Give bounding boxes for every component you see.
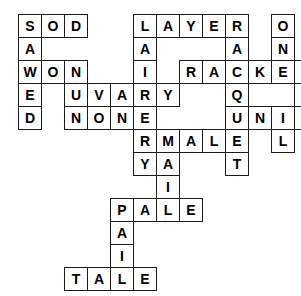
crossword-cell: L — [202, 129, 226, 153]
crossword-cell: Y — [133, 152, 157, 176]
crossword-cell: T — [294, 60, 301, 84]
crossword-cell: A — [294, 83, 301, 107]
crossword-cell: R — [179, 60, 203, 84]
crossword-cell: R — [133, 129, 157, 153]
crossword-cell: Y — [179, 14, 203, 38]
crossword-cell: R — [133, 83, 157, 107]
crossword-cell: P — [110, 198, 134, 222]
crossword-cell: N — [110, 106, 134, 130]
crossword-cell: U — [64, 83, 88, 107]
crossword-cell: Y — [156, 83, 180, 107]
crossword-cell: E — [225, 129, 249, 153]
crossword-cell: A — [133, 198, 157, 222]
crossword-cell: V — [87, 83, 111, 107]
crossword-cell: L — [110, 267, 134, 291]
crossword-cell: T — [225, 152, 249, 176]
crossword-cell: E — [271, 60, 295, 84]
crossword-cell: W — [18, 60, 42, 84]
crossword-cell: N — [64, 106, 88, 130]
crossword-cell: A — [110, 221, 134, 245]
crossword-cell: L — [271, 129, 295, 153]
crossword-cell: E — [18, 83, 42, 107]
crossword-grid: SODLAYEROKAAANNWONIRACKETIEUVARYQAGDNONE… — [0, 0, 301, 296]
crossword-cell: L — [133, 14, 157, 38]
crossword-cell: A — [156, 152, 180, 176]
crossword-cell: N — [248, 106, 272, 130]
crossword-cell: O — [41, 14, 65, 38]
crossword-cell: U — [225, 106, 249, 130]
crossword-cell: E — [133, 106, 157, 130]
crossword-cell: T — [64, 267, 88, 291]
crossword-cell: A — [18, 37, 42, 61]
crossword-cell: A — [179, 129, 203, 153]
crossword-cell: I — [156, 175, 180, 199]
crossword-cell: D — [64, 14, 88, 38]
crossword-cell: S — [18, 14, 42, 38]
crossword-cell: E — [133, 267, 157, 291]
crossword-cell: A — [156, 14, 180, 38]
crossword-cell: M — [156, 129, 180, 153]
crossword-cell: R — [225, 14, 249, 38]
crossword-cell: N — [271, 37, 295, 61]
crossword-cell: I — [110, 244, 134, 268]
crossword-cell: I — [133, 60, 157, 84]
crossword-cell: A — [110, 83, 134, 107]
crossword-cell: O — [271, 14, 295, 38]
crossword-cell: I — [271, 106, 295, 130]
crossword-cell: Q — [225, 83, 249, 107]
crossword-cell: N — [64, 60, 88, 84]
crossword-cell: A — [87, 267, 111, 291]
crossword-cell: L — [156, 198, 180, 222]
crossword-cell: C — [225, 60, 249, 84]
crossword-cell: O — [87, 106, 111, 130]
crossword-cell: A — [225, 37, 249, 61]
crossword-cell: D — [18, 106, 42, 130]
crossword-cell: K — [248, 60, 272, 84]
crossword-cell: G — [294, 106, 301, 130]
crossword-cell: E — [179, 198, 203, 222]
crossword-cell: A — [133, 37, 157, 61]
crossword-cell: A — [202, 60, 226, 84]
crossword-cell: E — [202, 14, 226, 38]
crossword-cell: O — [41, 60, 65, 84]
